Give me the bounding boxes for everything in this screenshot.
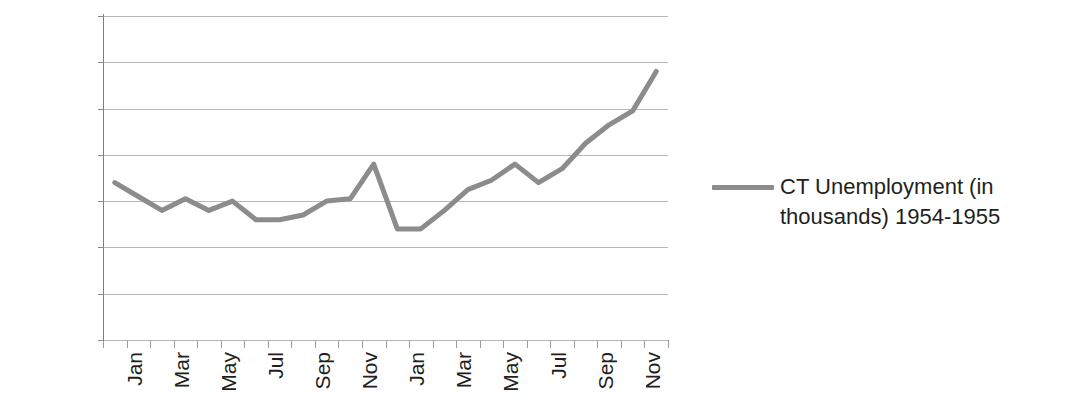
- series-polyline: [115, 72, 656, 229]
- x-tick-label: Sep: [595, 352, 616, 389]
- x-tick-label: May: [500, 352, 521, 392]
- x-tick-mark: [480, 341, 481, 348]
- x-tick-mark: [597, 341, 598, 348]
- x-tick-mark: [197, 341, 198, 348]
- x-tick-mark: [574, 341, 575, 348]
- x-tick-mark: [503, 341, 504, 348]
- x-tick-label: Nov: [359, 352, 380, 389]
- y-tick-mark: [98, 340, 104, 341]
- x-tick-mark: [291, 341, 292, 348]
- series-line: [103, 16, 668, 340]
- legend-color-swatch: [712, 185, 774, 190]
- x-tick-mark: [668, 341, 669, 348]
- x-tick-label: Nov: [642, 352, 663, 389]
- x-tick-mark: [644, 341, 645, 348]
- x-tick-mark: [244, 341, 245, 348]
- x-tick-label: Jul: [265, 352, 286, 379]
- x-tick-mark: [315, 341, 316, 348]
- legend-label: CT Unemployment (in thousands) 1954-1955: [780, 172, 1058, 232]
- x-tick-label: Mar: [453, 352, 474, 388]
- x-tick-mark: [386, 341, 387, 348]
- x-tick-mark: [527, 341, 528, 348]
- x-tick-label: Jan: [124, 352, 145, 386]
- x-tick-label: May: [218, 352, 239, 392]
- x-tick-mark: [103, 341, 104, 348]
- gridline: [103, 340, 668, 341]
- x-tick-mark: [550, 341, 551, 348]
- x-tick-label: Jan: [406, 352, 427, 386]
- chart-legend: CT Unemployment (in thousands) 1954-1955: [712, 172, 1060, 232]
- x-tick-label: Jul: [548, 352, 569, 379]
- x-tick-mark: [409, 341, 410, 348]
- x-tick-mark: [268, 341, 269, 348]
- chart-page: 940.0920.0900.0880.0860.0840.0820.0800.0…: [0, 0, 1068, 405]
- x-tick-mark: [433, 341, 434, 348]
- plot-area: [103, 16, 668, 340]
- x-tick-mark: [150, 341, 151, 348]
- x-tick-mark: [362, 341, 363, 348]
- x-tick-mark: [456, 341, 457, 348]
- x-tick-mark: [338, 341, 339, 348]
- x-tick-label: Sep: [312, 352, 333, 389]
- x-tick-mark: [127, 341, 128, 348]
- x-tick-mark: [174, 341, 175, 348]
- x-tick-mark: [621, 341, 622, 348]
- x-tick-label: Mar: [171, 352, 192, 388]
- line-chart: 940.0920.0900.0880.0860.0840.0820.0800.0…: [0, 0, 700, 405]
- x-tick-mark: [221, 341, 222, 348]
